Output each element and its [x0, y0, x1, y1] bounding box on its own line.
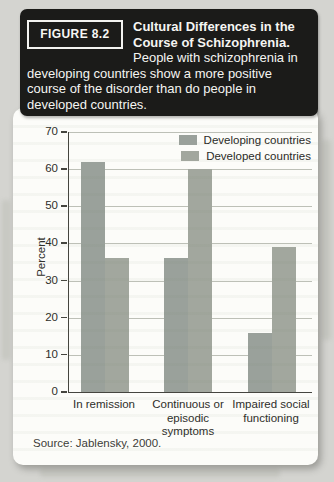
y-tick-40 [61, 242, 67, 244]
legend-label: Developed countries [206, 150, 311, 162]
y-tick-label-30: 30 [29, 274, 58, 286]
category-label-in-remission: In remission [60, 398, 148, 412]
figure-card: Percent 010203040506070 Developing count… [13, 108, 318, 465]
y-tick-label-40: 40 [29, 236, 58, 248]
developed-countries-bar-0 [105, 258, 129, 392]
y-tick-20 [61, 317, 67, 319]
legend-item-developed-countries: Developed countries [179, 150, 311, 162]
figure-title: Cultural Differences in the Course of Sc… [133, 19, 295, 50]
figure-header: FIGURE 8.2 Cultural Differences in the C… [20, 9, 318, 116]
y-tick-10 [61, 354, 67, 356]
developed-countries-bar-1 [188, 169, 212, 392]
legend-label: Developing countries [204, 134, 311, 146]
developing-countries-bar-0 [81, 162, 105, 392]
source-citation: Source: Jablensky, 2000. [33, 437, 161, 449]
y-tick-50 [61, 205, 67, 207]
y-tick-0 [61, 391, 67, 393]
scan-artifact [40, 469, 280, 477]
figure-number-tag: FIGURE 8.2 [27, 20, 123, 49]
developed-countries-bar-2 [272, 247, 296, 392]
developing-countries-bar-1 [164, 258, 188, 392]
y-tick-label-70: 70 [29, 125, 58, 137]
y-tick-70 [61, 131, 67, 133]
y-tick-label-60: 60 [29, 162, 58, 174]
y-tick-30 [61, 280, 67, 282]
gridline-70 [69, 132, 312, 133]
category-label-continuous-or-episodic-symptoms: Continuous or episodic symptoms [144, 398, 232, 439]
legend-swatch-developed-countries [181, 151, 199, 161]
y-tick-60 [61, 168, 67, 170]
category-label-impaired-social-functioning: Impaired social functioning [227, 398, 315, 425]
bar-chart-plot-area: Percent 010203040506070 [68, 132, 312, 393]
developing-countries-bar-2 [248, 333, 272, 392]
legend-swatch-developing-countries [179, 135, 197, 145]
figure-description: People with schizophrenia in developing … [27, 50, 298, 112]
y-tick-label-20: 20 [29, 311, 58, 323]
legend-item-developing-countries: Developing countries [179, 134, 311, 146]
page-background: { "header": { "figure_label": "FIGURE 8.… [0, 0, 334, 482]
y-tick-label-0: 0 [29, 385, 58, 397]
chart-legend: Developing countriesDeveloped countries [179, 134, 311, 166]
scan-artifact [322, 140, 331, 340]
scan-artifact [2, 200, 10, 360]
y-tick-label-50: 50 [29, 199, 58, 211]
y-tick-label-10: 10 [29, 348, 58, 360]
